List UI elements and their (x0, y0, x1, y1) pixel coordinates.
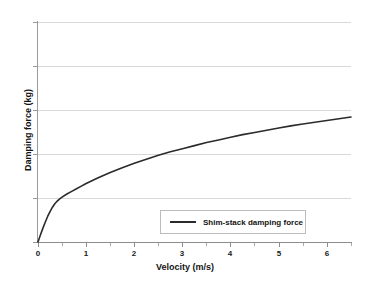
y-axis-tick (33, 22, 38, 23)
x-axis-tick (279, 243, 280, 247)
x-axis-minor-tick (206, 243, 207, 246)
x-axis-minor-tick (158, 243, 159, 246)
x-tick-label-0: 0 (28, 249, 48, 258)
x-axis-line (37, 242, 352, 243)
x-axis-tick (182, 243, 183, 247)
x-axis-minor-tick (351, 243, 352, 246)
x-tick-label-1: 1 (76, 249, 96, 258)
x-tick-label-5: 5 (269, 249, 289, 258)
x-axis-tick (230, 243, 231, 247)
y-axis-tick (33, 154, 38, 155)
legend: Shim-stack damping force (160, 210, 306, 234)
x-axis-minor-tick (62, 243, 63, 246)
y-axis-title: Damping force (kg) (23, 50, 33, 210)
legend-item-label: Shim-stack damping force (203, 218, 303, 227)
y-axis-line (37, 21, 38, 243)
x-tick-label-4: 4 (220, 249, 240, 258)
x-axis-minor-tick (110, 243, 111, 246)
x-axis-minor-tick (254, 243, 255, 246)
y-axis-tick (33, 198, 38, 199)
y-axis-tick (33, 110, 38, 111)
x-tick-label-2: 2 (124, 249, 144, 258)
gridline (38, 22, 351, 23)
y-axis-tick (33, 66, 38, 67)
x-axis-tick (327, 243, 328, 247)
x-tick-label-6: 6 (317, 249, 337, 258)
x-axis-tick (86, 243, 87, 247)
x-axis-tick (38, 243, 39, 247)
legend-line-swatch (170, 221, 196, 223)
gridline (38, 154, 351, 155)
plot-area (38, 22, 351, 242)
x-axis-title: Velocity (m/s) (0, 262, 370, 272)
gridline (38, 198, 351, 199)
gridline (38, 66, 351, 67)
gridline (38, 110, 351, 111)
damping-force-chart: 0 1 2 3 4 5 6 Velocity (m/s) Damping for… (0, 0, 370, 290)
x-tick-label-3: 3 (172, 249, 192, 258)
x-axis-minor-tick (303, 243, 304, 246)
x-axis-tick (134, 243, 135, 247)
